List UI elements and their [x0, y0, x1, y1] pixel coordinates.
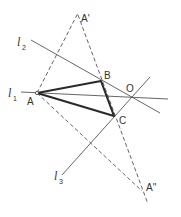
dashed-line-a-prime-a-double-prime [78, 15, 148, 204]
label-o: O [126, 83, 134, 94]
label-l1-subscript: 1 [13, 95, 17, 102]
label-l2-subscript: 2 [22, 44, 26, 51]
label-b: B [104, 70, 111, 81]
label-l3: l [54, 169, 58, 183]
geometry-diagram: A B C O A' A'' l 1 l 2 l 3 [0, 0, 181, 217]
label-a-prime: A' [81, 13, 90, 24]
triangle-abc [37, 81, 114, 116]
label-l3-subscript: 3 [59, 178, 63, 185]
label-a: A [27, 96, 34, 107]
label-a-double-prime: A'' [146, 182, 157, 193]
point-a-marker [35, 91, 38, 94]
label-c: C [119, 115, 126, 126]
label-l2: l [17, 35, 21, 49]
line-l2 [31, 40, 160, 113]
label-l1: l [8, 86, 12, 100]
dashed-line-a-a-prime [37, 13, 78, 93]
